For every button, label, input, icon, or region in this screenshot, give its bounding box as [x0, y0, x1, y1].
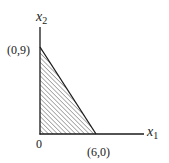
vertex-label-6-0: (6,0)	[87, 145, 110, 159]
origin-label: 0	[36, 137, 42, 151]
x2-axis-label: x2	[35, 9, 47, 26]
feasible-region-diagram: x2 x1 (0,9) (6,0) 0	[0, 0, 169, 163]
vertex-label-0-9: (0,9)	[7, 43, 30, 57]
x1-axis-label: x1	[146, 124, 158, 141]
